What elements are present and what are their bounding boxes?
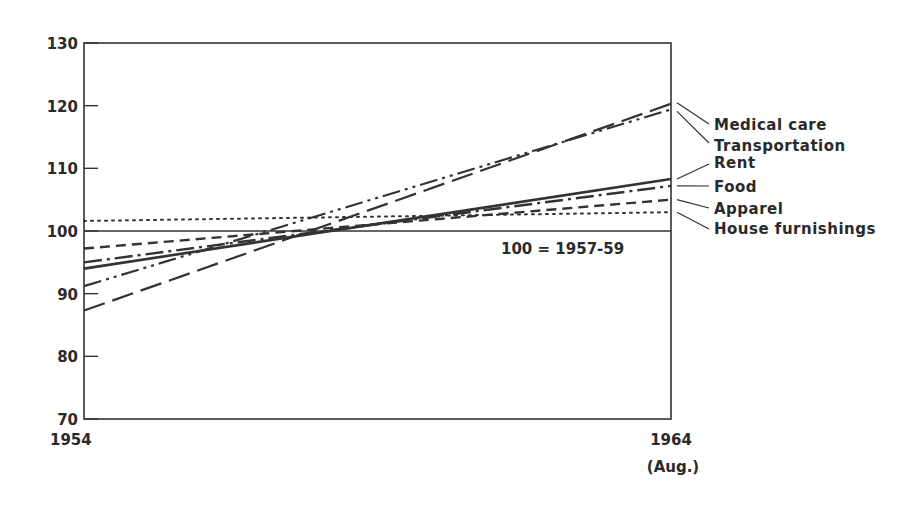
base-period-note: 100 = 1957-59: [501, 240, 624, 258]
y-tick-label: 100: [47, 223, 78, 241]
series-label-apparel: Apparel: [714, 200, 783, 218]
x-tick-label-end: 1964: [650, 431, 692, 449]
leader-line: [677, 103, 709, 124]
y-tick-label: 70: [57, 411, 78, 429]
y-tick-label: 80: [57, 348, 78, 366]
leader-line: [677, 200, 709, 208]
x-tick-label-start: 1954: [50, 431, 92, 449]
series-line-house-furnishings: [84, 212, 671, 221]
price-index-chart: 70809010011012013019541964(Aug.) 100 = 1…: [0, 0, 917, 508]
leader-line: [677, 111, 709, 143]
y-tick-label: 120: [47, 98, 78, 116]
series-label-medical-care: Medical care: [714, 116, 827, 134]
series-label-rent: Rent: [714, 154, 756, 172]
series-label-transportation: Transportation: [714, 137, 846, 155]
leader-line: [677, 164, 709, 179]
y-tick-label: 110: [47, 160, 78, 178]
series-label-food: Food: [714, 178, 757, 196]
series-lines: [84, 104, 671, 311]
leader-line: [677, 212, 709, 229]
y-tick-label: 90: [57, 286, 78, 304]
y-tick-label: 130: [47, 35, 78, 53]
x-tick-sublabel: (Aug.): [647, 458, 699, 476]
series-labels: Medical careTransportationRentFoodAppare…: [677, 103, 876, 238]
series-label-house-furnishings: House furnishings: [714, 220, 876, 238]
